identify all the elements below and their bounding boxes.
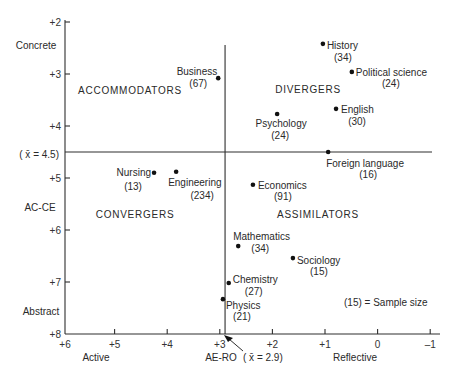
y-tick-label: +5 — [50, 173, 62, 184]
data-point — [291, 256, 296, 261]
data-point-sample-size: (15) — [310, 266, 328, 277]
quadrant-label-divergers: DIVERGERS — [275, 84, 341, 95]
y-tick-label: +2 — [50, 17, 62, 28]
data-point-sample-size: (24) — [271, 130, 289, 141]
data-point — [236, 244, 241, 249]
data-point-group: Foreign language(16) — [326, 150, 405, 180]
data-point-sample-size: (24) — [382, 78, 400, 89]
x-axis-left-label: Active — [82, 352, 110, 363]
data-point-group: Political science(24) — [350, 67, 428, 89]
data-point-label: English — [341, 104, 374, 115]
data-point-label: Psychology — [256, 118, 307, 129]
data-point — [152, 171, 157, 176]
learning-style-chart: +2+3+4+5+6+7+8+6+5+4+3+2+10–1 History(34… — [0, 0, 454, 375]
data-point-label: Nursing — [117, 167, 151, 178]
data-point-group: Sociology(15) — [291, 255, 341, 277]
x-axis-right-label: Reflective — [333, 352, 377, 363]
data-point-label: Political science — [356, 67, 428, 78]
data-point-group: History(34) — [321, 40, 358, 63]
data-point-sample-size: (21) — [233, 311, 251, 322]
data-point-sample-size: (91) — [274, 191, 292, 202]
data-point-sample-size: (13) — [124, 181, 142, 192]
x-tick-label: +5 — [109, 339, 121, 350]
data-point-group: English(30) — [334, 104, 374, 127]
data-points: History(34)Political science(24)Business… — [117, 40, 428, 321]
x-tick-label: 0 — [375, 339, 381, 350]
data-point — [251, 182, 256, 187]
x-mean-label: ( x̄ = 2.9) — [243, 352, 283, 363]
data-point — [275, 112, 280, 117]
y-axis-top-label: Concrete — [16, 40, 57, 51]
quadrant-label-assimilators: ASSIMILATORS — [277, 209, 359, 220]
data-point-label: Foreign language — [326, 158, 404, 169]
data-point-group: Psychology(24) — [256, 112, 307, 141]
data-point — [321, 42, 326, 47]
sample-size-note: (15) = Sample size — [344, 297, 428, 308]
y-tick-label: +4 — [50, 121, 62, 132]
x-tick-label: +3 — [214, 339, 226, 350]
y-axis-bottom-label: Abstract — [23, 306, 60, 317]
x-tick-label: –1 — [425, 339, 437, 350]
quadrant-label-accommodators: ACCOMMODATORS — [78, 85, 182, 96]
y-tick-label: +7 — [50, 277, 62, 288]
data-point-sample-size: (30) — [348, 116, 366, 127]
data-point — [334, 107, 339, 112]
data-point — [350, 70, 355, 75]
x-axis-title: AE-RO — [205, 352, 237, 363]
data-point-sample-size: (16) — [359, 169, 377, 180]
data-point-label: Business — [177, 66, 218, 77]
data-point-label: Chemistry — [233, 274, 278, 285]
data-point-sample-size: (234) — [190, 190, 213, 201]
data-point-label: History — [327, 40, 358, 51]
x-tick-label: +1 — [319, 339, 331, 350]
x-tick-label: +4 — [161, 339, 173, 350]
data-point — [326, 150, 331, 155]
data-point-group: Nursing(13) — [117, 167, 157, 192]
data-point-group: Mathematics(34) — [233, 231, 290, 254]
data-point-group: Economics(91) — [251, 180, 307, 202]
data-point-group: Chemistry(27) — [226, 274, 277, 297]
y-tick-label: +3 — [50, 69, 62, 80]
data-point-label: Physics — [226, 300, 260, 311]
y-axis-title: AC-CE — [24, 202, 55, 213]
x-tick-label: +6 — [59, 339, 71, 350]
data-point-sample-size: (27) — [245, 286, 263, 297]
data-point-label: Engineering — [168, 177, 221, 188]
data-point-group: Engineering(234) — [168, 169, 221, 201]
x-mean-arrow-line — [229, 339, 243, 351]
x-tick-label: +2 — [267, 339, 279, 350]
data-point — [226, 281, 231, 286]
data-point-label: Economics — [258, 180, 307, 191]
y-tick-label: +6 — [50, 225, 62, 236]
data-point-label: Sociology — [297, 255, 340, 266]
quadrant-label-convergers: CONVERGERS — [96, 209, 175, 220]
data-point-group: Physics(21) — [221, 297, 261, 322]
data-point-label: Mathematics — [233, 231, 290, 242]
y-mean-label: ( x̄ = 4.5) — [19, 149, 59, 160]
data-point — [221, 297, 226, 302]
data-point-sample-size: (67) — [189, 78, 207, 89]
data-point-sample-size: (34) — [251, 243, 269, 254]
data-point-group: Business(67) — [177, 66, 221, 89]
data-point-sample-size: (34) — [334, 52, 352, 63]
data-point — [174, 169, 179, 174]
